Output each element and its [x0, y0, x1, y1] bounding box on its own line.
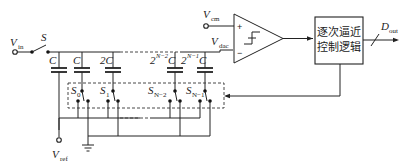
- comparator-plus: +: [237, 22, 242, 32]
- switch-s0: S 0: [71, 84, 90, 136]
- switch-sn-1: S N−1: [186, 84, 212, 136]
- vref-terminal: [57, 138, 62, 143]
- cap-label-unit: C: [168, 54, 176, 66]
- cap-label: C: [49, 54, 57, 66]
- cap-label-unit: C: [199, 54, 207, 66]
- vcm-label: V: [203, 8, 211, 20]
- dout-subscript: out: [389, 27, 398, 35]
- top-plate-bus: [48, 50, 233, 52]
- switch-s1: S 1: [100, 84, 120, 136]
- cap-label: C: [73, 54, 81, 66]
- vdac-label: V: [211, 35, 219, 47]
- ground-bus: [82, 136, 210, 151]
- vin-subscript: in: [18, 43, 24, 51]
- switch-subscript: N−2: [154, 91, 167, 99]
- vcm-terminal: [204, 24, 209, 29]
- cap-label: 2C: [100, 54, 114, 66]
- switch-subscript: N−1: [192, 91, 205, 99]
- vdac-subscript: dac: [219, 42, 229, 50]
- comparator: V cm V dac + −: [203, 8, 313, 63]
- vcm-subscript: cm: [211, 15, 220, 23]
- vref-subscript: ref: [60, 155, 68, 163]
- sar-logic-line2: 控制逻辑: [317, 40, 361, 54]
- sar-logic-line1: 逐次逼近: [317, 25, 361, 39]
- vin-terminal: [13, 50, 18, 55]
- cap-label-exponent: N−1: [186, 52, 199, 59]
- vin-label: V: [10, 36, 18, 48]
- arrow-icon: [224, 94, 230, 98]
- switch-bank: S 0 S 1 S N−2: [71, 84, 212, 136]
- switch-subscript: 1: [106, 91, 110, 99]
- comparator-minus: −: [237, 48, 242, 58]
- capacitor-2n-2c: 2 N−2 C: [150, 52, 183, 91]
- sar-adc-schematic: V in S C C: [0, 0, 405, 167]
- hysteresis-icon: [244, 32, 260, 44]
- switch-s-label: S: [41, 31, 47, 43]
- switch-subscript: 0: [77, 91, 81, 99]
- switch-s-blade: [32, 45, 46, 52]
- vin-input: V in S: [10, 31, 50, 54]
- control-feedback-wire: [226, 64, 340, 96]
- arrow-icon: [307, 36, 313, 40]
- sar-logic-block: 逐次逼近 控制逻辑 D out: [224, 17, 399, 98]
- vref-label: V: [52, 148, 60, 160]
- ground-icon: [82, 145, 94, 151]
- arrow-icon: [393, 38, 399, 42]
- switch-sn-2: S N−2: [148, 84, 182, 136]
- vref-bus: V ref: [52, 118, 200, 163]
- dout-label: D: [380, 20, 389, 32]
- cap-label-exponent: N−2: [155, 52, 169, 59]
